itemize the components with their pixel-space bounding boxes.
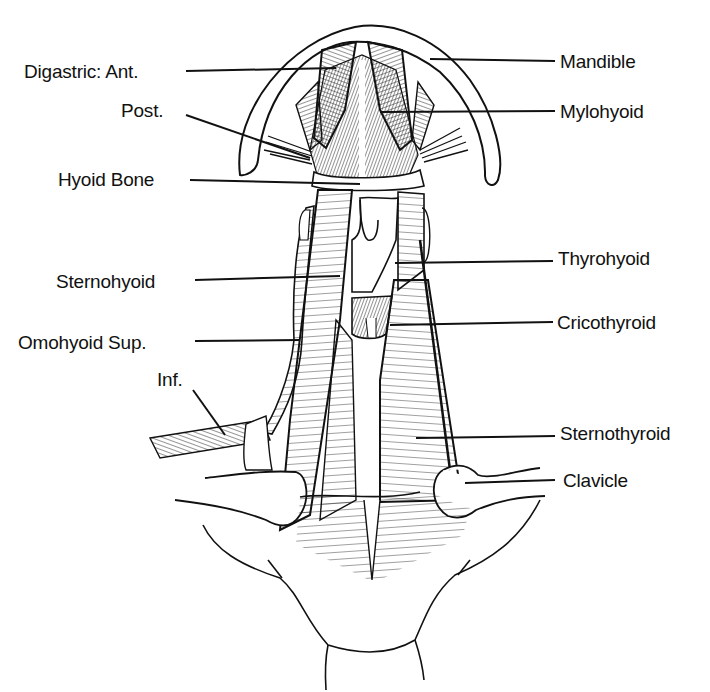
leader-line-digastric-ant — [186, 68, 336, 71]
leader-line-omohyoid-sup — [195, 340, 300, 341]
leader-line-mylohyoid — [380, 111, 555, 112]
sternothyroid-muscle — [380, 240, 462, 502]
label-omohyoid-inf: Inf. — [157, 370, 183, 389]
label-thyrohyoid: Thyrohyoid — [558, 249, 650, 268]
leader-line-mandible — [430, 59, 555, 61]
label-cricothyroid: Cricothyroid — [557, 313, 656, 332]
label-hyoid-bone: Hyoid Bone — [58, 170, 154, 189]
label-sternohyoid: Sternohyoid — [56, 272, 155, 291]
label-digastric-post: Post. — [121, 101, 163, 120]
sternum — [296, 492, 470, 583]
label-clavicle: Clavicle — [563, 471, 628, 490]
label-digastric-ant: Digastric: Ant. — [24, 62, 138, 81]
label-mylohyoid: Mylohyoid — [560, 102, 644, 121]
label-sternothyroid: Sternothyroid — [560, 424, 670, 443]
neck-anatomy-diagram: Digastric: Ant.Post.Hyoid BoneSternohyoi… — [0, 0, 710, 692]
omohyoid-inferior-belly — [150, 416, 272, 470]
label-mandible: Mandible — [560, 52, 636, 71]
thyroid-cartilage — [352, 197, 398, 292]
label-omohyoid-sup: Omohyoid Sup. — [18, 333, 146, 352]
